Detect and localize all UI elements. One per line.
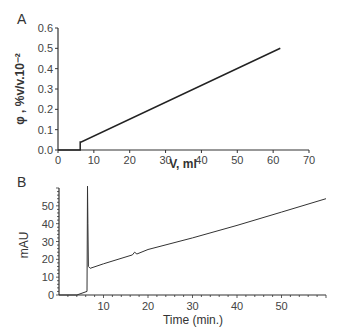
y-tick-label: 0.0 [38,144,53,156]
x-tick-label: 30 [186,300,198,312]
chart-b-y-axis-label: mAU [17,232,31,259]
chart-b-axes [59,188,326,295]
x-tick-label: 50 [231,154,243,166]
y-tick-label: 0.6 [38,22,53,34]
y-tick-label: 10 [42,271,54,283]
chart-b-absorbance-trace [59,186,326,295]
y-tick-label: 0.4 [38,63,53,75]
x-tick-label: 10 [88,154,100,166]
chart-b-x-axis-label: Time (min.) [163,313,223,327]
x-tick-label: 60 [267,154,279,166]
panel-label-a: A [17,11,27,27]
figure: A 0.00.10.20.30.40.50.6010203040506070 V… [0,0,342,336]
chart-a-ticks: 0.00.10.20.30.40.50.6010203040506070 [38,22,315,166]
y-tick-label: 0.2 [38,103,53,115]
chart-a-gradient-line [58,48,280,150]
chart-b-ticks: 010203040501020304050 [42,188,326,312]
x-tick-label: 40 [231,300,243,312]
x-tick-label: 50 [275,300,287,312]
panel-label-b: B [17,174,26,190]
y-tick-label: 0.3 [38,83,53,95]
y-tick-label: 40 [42,218,54,230]
y-tick-label: 0 [48,289,54,301]
y-tick-label: 30 [42,236,54,248]
y-tick-label: 0.1 [38,124,53,136]
y-tick-label: 0.5 [38,42,53,54]
y-tick-label: 20 [42,253,54,265]
x-tick-label: 0 [55,154,61,166]
x-tick-label: 10 [97,300,109,312]
chart-a: A 0.00.10.20.30.40.50.6010203040506070 V… [13,11,315,171]
x-tick-label: 20 [142,300,154,312]
chart-a-y-axis-label: φ , %v/v.10⁻² [13,53,27,125]
chart-a-axes [58,28,309,150]
y-tick-label: 50 [42,200,54,212]
x-tick-label: 40 [195,154,207,166]
x-tick-label: 70 [303,154,315,166]
chart-b: B 010203040501020304050 Time (min.) mAU [17,174,326,327]
x-tick-label: 20 [124,154,136,166]
chart-a-x-axis-label: V, ml [169,157,197,171]
